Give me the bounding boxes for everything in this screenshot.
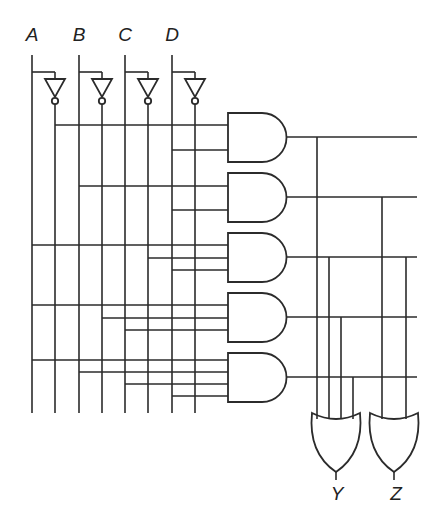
and-gate-icon (228, 113, 287, 162)
inversion-bubble-icon (192, 98, 198, 104)
inversion-bubble-icon (52, 98, 58, 104)
not-gate-icon (138, 79, 158, 97)
output-label-y: Y (331, 484, 344, 503)
input-label-d: D (165, 25, 179, 44)
and-gate-icon (228, 233, 287, 282)
input-label-a: A (26, 25, 39, 44)
and-gate-icon (228, 353, 287, 402)
not-gate-icon (92, 79, 112, 97)
inversion-bubble-icon (99, 98, 105, 104)
or-gate-icon (370, 413, 419, 472)
or-gate-icon (312, 413, 361, 472)
output-label-z: Z (390, 484, 402, 503)
input-label-b: B (73, 25, 86, 44)
input-label-c: C (118, 25, 132, 44)
not-gate-icon (45, 79, 65, 97)
and-gate-icon (228, 293, 287, 342)
circuit-canvas (0, 0, 440, 530)
logic-circuit-diagram: A B C D Y Z (0, 0, 440, 530)
and-gate-icon (228, 173, 286, 222)
not-gate-icon (185, 79, 205, 97)
inversion-bubble-icon (145, 98, 151, 104)
